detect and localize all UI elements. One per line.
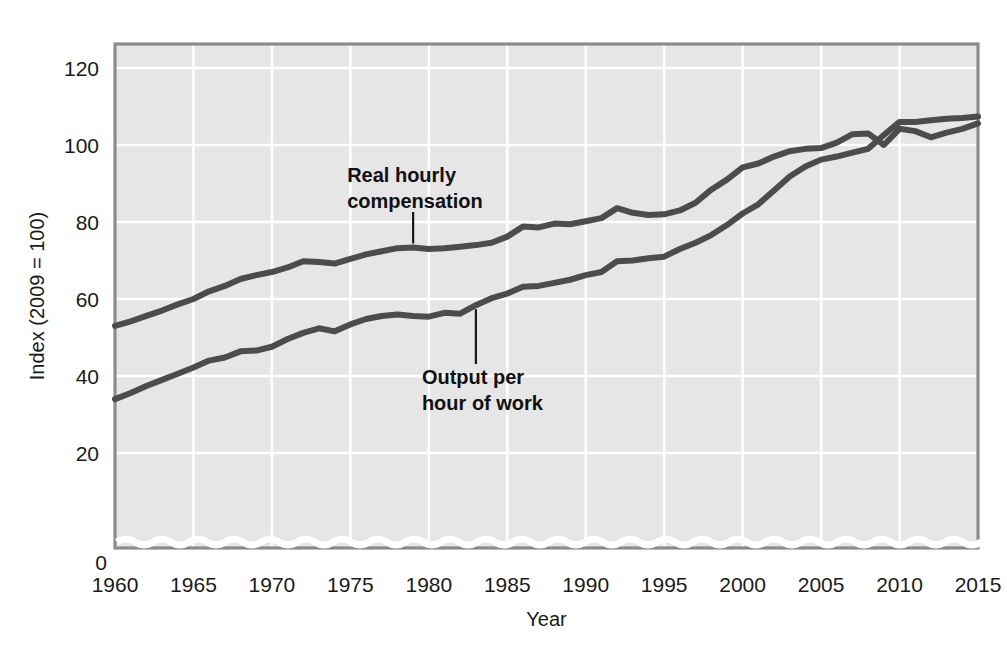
x-tick-1995: 1995 [641,573,688,596]
y-tick-80: 80 [76,211,99,234]
y-tick-20: 20 [76,442,99,465]
x-axis-title: Year [526,608,567,630]
annotation-label-1-line2: hour of work [422,392,544,414]
y-tick-60: 60 [76,288,99,311]
x-tick-2000: 2000 [719,573,766,596]
x-tick-1965: 1965 [170,573,217,596]
chart-figure: 20406080100120 1960196519701975198019851… [0,0,1007,651]
x-tick-1960: 1960 [92,573,139,596]
x-tick-2010: 2010 [876,573,923,596]
y-axis-title: Index (2009 = 100) [26,212,48,380]
plot-area-background [115,44,978,548]
line-chart: 20406080100120 1960196519701975198019851… [0,0,1007,651]
x-tick-1975: 1975 [327,573,374,596]
x-tick-1985: 1985 [484,573,531,596]
x-tick-2015: 2015 [955,573,1002,596]
x-tick-2005: 2005 [798,573,845,596]
y-tick-120: 120 [64,57,99,80]
annotation-label-1-line1: Output per [422,366,524,388]
y-tick-100: 100 [64,134,99,157]
annotation-label-0-line1: Real hourly [347,164,457,186]
y-axis-zero-label: 0 [95,551,107,574]
y-tick-40: 40 [76,365,99,388]
x-tick-1990: 1990 [562,573,609,596]
annotation-label-0-line2: compensation [347,190,483,212]
x-tick-1980: 1980 [405,573,452,596]
x-tick-1970: 1970 [249,573,296,596]
